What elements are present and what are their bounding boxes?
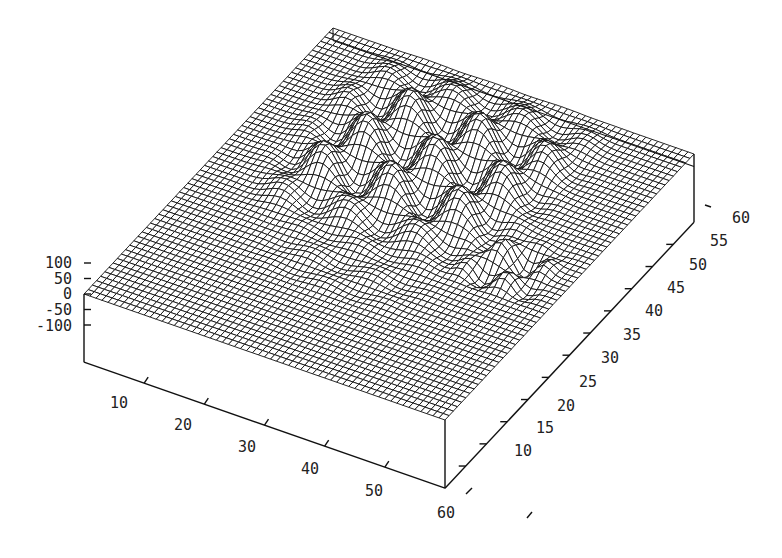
x-axis: 10 20 30 40 50 60 (110, 394, 455, 522)
z-tick-label: -100 (36, 317, 72, 335)
x-tick-label: 40 (301, 460, 319, 478)
y-tick-label: 25 (579, 373, 597, 391)
y-tick-label: 40 (645, 302, 663, 320)
y-tick-label: 10 (514, 442, 532, 460)
y-tick-label: 20 (557, 397, 575, 415)
y-tick-label: 15 (536, 419, 554, 437)
y-tick-label: 35 (623, 326, 641, 344)
y-tick-label: 50 (689, 256, 707, 274)
x-tick-label: 30 (238, 438, 256, 456)
z-axis: 100 50 0 -50 -100 (36, 254, 72, 335)
y-tick-label: 60 (732, 209, 750, 227)
x-tick-label: 60 (437, 504, 455, 522)
y-tick-label: 55 (710, 232, 728, 250)
x-tick-label: 50 (365, 482, 383, 500)
x-tick-label: 20 (174, 416, 192, 434)
y-tick-label: 30 (601, 349, 619, 367)
surface-plot: 100 50 0 -50 -100 10 20 30 40 50 60 10 1… (0, 0, 782, 558)
y-tick-label: 45 (667, 279, 685, 297)
x-tick-label: 10 (110, 394, 128, 412)
